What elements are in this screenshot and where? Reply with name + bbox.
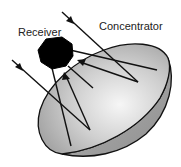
solar-dish-diagram: Receiver Concentrator [0,0,181,167]
concentrator-label: Concentrator [99,21,163,32]
receiver-label: Receiver [18,27,61,38]
receiver-body [38,37,73,69]
